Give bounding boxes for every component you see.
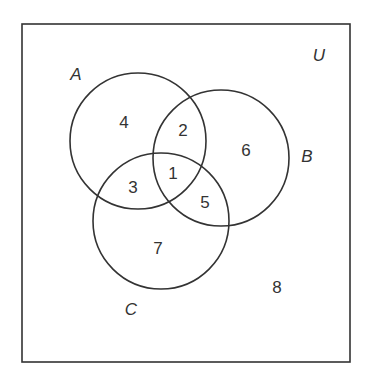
region-number-c-only: 7 [153,239,162,258]
set-label-b: B [301,147,312,166]
region-number-a-b: 2 [178,121,187,140]
region-number-a-only: 4 [119,113,128,132]
set-label-a: A [69,65,81,84]
set-label-c: C [125,300,138,319]
region-number-a-b-c: 1 [168,164,177,183]
universe-label: U [313,46,326,65]
region-number-b-only: 6 [241,141,250,160]
set-circle-b [153,90,289,226]
venn-diagram: U ABC 42613578 [0,0,367,378]
region-number-b-c: 5 [200,193,209,212]
region-number-outside: 8 [272,278,281,297]
region-number-a-c: 3 [128,178,137,197]
set-circle-c [93,153,229,289]
set-circle-a [70,73,206,209]
